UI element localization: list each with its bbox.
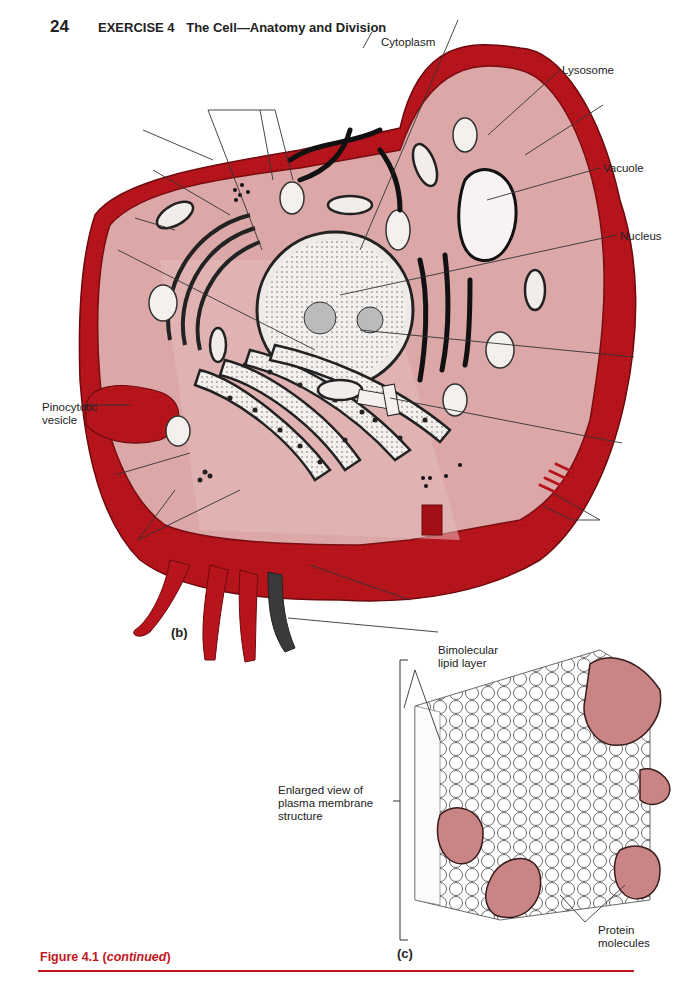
- cell-diagram-artwork: [0, 0, 674, 984]
- label-enlarged-view: Enlarged view of plasma membrane structu…: [278, 784, 373, 823]
- figure-caption: Figure 4.1 (continued): [40, 950, 171, 964]
- label-protein-molecules: Protein molecules: [598, 924, 650, 950]
- panel-label-b: (b): [171, 625, 188, 640]
- label-cytoplasm: Cytoplasm: [381, 36, 435, 49]
- label-pinocytotic-vesicle: Pinocytotic vesicle: [42, 401, 98, 427]
- label-lysosome: Lysosome: [562, 64, 614, 77]
- panel-label-c: (c): [397, 946, 413, 961]
- caption-note: continued: [107, 950, 167, 964]
- label-vacuole: Vacuole: [603, 162, 644, 175]
- caption-rule: [38, 970, 634, 972]
- membrane-block: [393, 650, 670, 940]
- label-nucleus: Nucleus: [620, 230, 662, 243]
- label-bimolecular-lipid-layer: Bimolecular lipid layer: [438, 644, 498, 670]
